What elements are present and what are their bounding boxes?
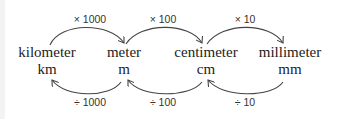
unit-name: meter (107, 44, 141, 61)
unit-millimeter: millimeter mm (259, 44, 321, 78)
unit-abbr: cm (174, 61, 237, 78)
divide-op-100: ÷ 100 (150, 96, 176, 108)
divide-op-1000: ÷ 1000 (74, 96, 106, 108)
unit-abbr: mm (259, 61, 321, 78)
unit-conversion-diagram: × 1000 × 100 × 10 kilometer km meter m c… (0, 0, 338, 119)
multiply-op-100: × 100 (150, 13, 177, 25)
unit-abbr: m (107, 61, 141, 78)
unit-kilometer: kilometer km (18, 44, 75, 78)
multiply-op-1000: × 1000 (74, 13, 106, 25)
unit-name: kilometer (18, 44, 75, 61)
unit-centimeter: centimeter cm (174, 44, 237, 78)
unit-meter: meter m (107, 44, 141, 78)
arrow-m-to-km (52, 80, 121, 94)
arrow-m-to-cm (126, 27, 202, 44)
multiply-op-10: × 10 (235, 13, 256, 25)
arrow-cm-to-m (128, 80, 202, 94)
divide-op-10: ÷ 10 (235, 96, 255, 108)
unit-abbr: km (18, 61, 75, 78)
unit-name: centimeter (174, 44, 237, 61)
arrow-cm-to-mm (207, 27, 283, 44)
arrow-mm-to-cm (208, 80, 283, 94)
unit-name: millimeter (259, 44, 321, 61)
arrow-km-to-m (50, 27, 124, 45)
